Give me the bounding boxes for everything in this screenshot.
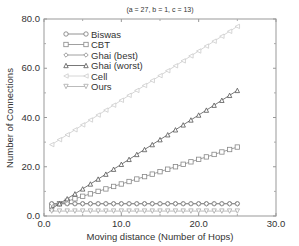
series-lines (50, 24, 240, 213)
legend-label: Ours (91, 81, 112, 92)
triangle-left-marker-icon (104, 108, 108, 112)
triangle-up-marker-icon (181, 123, 185, 127)
triangle-up-marker-icon (166, 133, 170, 137)
square-marker-icon (181, 162, 185, 166)
triangle-down-marker-icon (73, 209, 77, 213)
triangle-up-marker-icon (150, 142, 154, 146)
square-marker-icon (212, 152, 216, 156)
chart-subtitle: (a = 27, b = 1, c = 13) (126, 6, 193, 14)
triangle-left-marker-icon (65, 133, 69, 137)
triangle-left-marker-icon (235, 24, 239, 28)
triangle-up-marker-icon (212, 103, 216, 107)
triangle-up-marker-icon (220, 98, 224, 102)
legend-item: CBT (64, 39, 110, 50)
triangle-up-marker-icon (196, 113, 200, 117)
triangle-left-marker-icon (189, 54, 193, 58)
square-marker-icon (196, 157, 200, 161)
triangle-down-marker-icon (96, 209, 100, 213)
square-marker-icon (204, 155, 208, 159)
x-axis-title: Moving distance (Number of Hops) (87, 231, 234, 242)
axes: 0.010.020.030.00.020.040.060.080.0 (22, 13, 286, 229)
triangle-up-marker-icon (96, 177, 100, 181)
triangle-down-marker-icon (173, 209, 177, 213)
triangle-down-marker-icon (111, 209, 115, 213)
y-axis-title: Number of Connections (4, 68, 15, 168)
line-chart: (a = 27, b = 1, c = 13) 0.010.020.030.00… (0, 0, 299, 246)
triangle-left-marker-icon (84, 74, 88, 78)
legend-item: Cell (64, 71, 108, 82)
triangle-left-marker-icon (173, 64, 177, 68)
triangle-left-marker-icon (204, 44, 208, 48)
triangle-up-marker-icon (235, 88, 239, 92)
square-marker-icon (127, 179, 131, 183)
square-marker-icon (104, 187, 108, 191)
square-marker-icon (189, 160, 193, 164)
triangle-down-marker-icon (158, 209, 162, 213)
triangle-down-marker-icon (64, 84, 68, 88)
square-marker-icon (235, 145, 239, 149)
y-tick-label: 40.0 (22, 112, 41, 123)
triangle-left-marker-icon (111, 103, 115, 107)
square-marker-icon (158, 169, 162, 173)
triangle-left-marker-icon (73, 128, 77, 132)
triangle-up-marker-icon (127, 157, 131, 161)
triangle-up-marker-icon (227, 93, 231, 97)
series-cbt (50, 145, 240, 208)
triangle-left-marker-icon (158, 73, 162, 77)
triangle-down-marker-icon (88, 209, 92, 213)
square-marker-icon (96, 189, 100, 193)
triangle-left-marker-icon (220, 34, 224, 38)
triangle-left-marker-icon (135, 88, 139, 92)
square-marker-icon (119, 182, 123, 186)
triangle-up-marker-icon (65, 197, 69, 201)
square-marker-icon (80, 194, 84, 198)
diamond-marker-icon (64, 53, 68, 57)
triangle-up-marker-icon (84, 63, 88, 67)
square-marker-icon (150, 172, 154, 176)
square-marker-icon (220, 150, 224, 154)
square-marker-icon (135, 177, 139, 181)
triangle-down-marker-icon (142, 209, 146, 213)
y-tick-label: 0.0 (27, 210, 40, 221)
triangle-up-marker-icon (189, 118, 193, 122)
triangle-up-marker-icon (80, 187, 84, 191)
y-tick-label: 80.0 (22, 13, 41, 24)
triangle-left-marker-icon (227, 29, 231, 33)
triangle-down-marker-icon (181, 209, 185, 213)
triangle-up-marker-icon (73, 192, 77, 196)
triangle-up-marker-icon (173, 128, 177, 132)
triangle-down-marker-icon (84, 84, 88, 88)
triangle-down-marker-icon (127, 209, 131, 213)
triangle-left-marker-icon (64, 74, 68, 78)
legend-label: Ghai (best) (91, 50, 138, 61)
legend-label: CBT (91, 39, 110, 50)
triangle-left-marker-icon (181, 59, 185, 63)
triangle-up-marker-icon (88, 182, 92, 186)
triangle-left-marker-icon (80, 123, 84, 127)
square-marker-icon (73, 197, 77, 201)
legend-item: Biswas (64, 29, 122, 40)
triangle-down-marker-icon (196, 209, 200, 213)
square-marker-icon (173, 165, 177, 169)
legend-label: Biswas (91, 29, 121, 40)
triangle-left-marker-icon (88, 118, 92, 122)
legend-label: Cell (91, 71, 107, 82)
triangle-left-marker-icon (150, 78, 154, 82)
triangle-up-marker-icon (158, 137, 162, 141)
triangle-left-marker-icon (212, 39, 216, 43)
legend-item: Ours (64, 81, 112, 92)
triangle-down-marker-icon (235, 209, 239, 213)
triangle-left-marker-icon (166, 69, 170, 73)
y-tick-label: 20.0 (22, 161, 41, 172)
series-ghai-best (50, 201, 240, 205)
triangle-left-marker-icon (119, 98, 123, 102)
triangle-down-marker-icon (65, 209, 69, 213)
triangle-left-marker-icon (196, 49, 200, 53)
diamond-marker-icon (84, 53, 88, 57)
x-tick-label: 10.0 (112, 218, 131, 229)
square-marker-icon (88, 192, 92, 196)
legend-item: Ghai (worst) (64, 60, 143, 71)
x-tick-label: 30.0 (267, 218, 286, 229)
triangle-down-marker-icon (150, 209, 154, 213)
triangle-up-marker-icon (119, 162, 123, 166)
